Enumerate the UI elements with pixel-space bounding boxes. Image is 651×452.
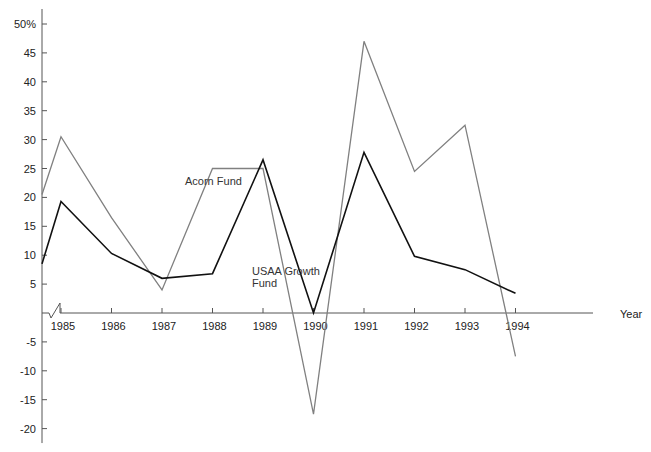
x-tick-label: 1991 [354,320,378,332]
y-tick-label: 35 [24,105,36,117]
y-tick-label: 50% [14,18,36,30]
y-tick-label: -20 [20,423,36,435]
x-tick-label: 1985 [51,320,75,332]
y-tick-label: 25 [24,163,36,175]
x-axis-line-with-break [42,303,593,318]
acorn-fund-label: Acorn Fund [185,175,242,187]
y-tick-label: -10 [20,365,36,377]
x-axis-title: Year [620,308,643,320]
x-tick-label: 1989 [253,320,277,332]
x-tick-label: 1987 [152,320,176,332]
y-tick-label: 15 [24,220,36,232]
y-tick-label: 20 [24,191,36,203]
series-lines [42,41,516,414]
y-tick-label: 45 [24,47,36,59]
y-tick-label: -15 [20,394,36,406]
usaa-growth-fund-label-line1: USAA Growth [252,265,320,277]
line-chart: 50%45403530252015105-5-10-15-20 19851986… [0,0,651,452]
x-tick-label: 1992 [404,320,428,332]
usaa-growth-fund-line [42,152,516,313]
usaa-growth-fund-label-line2: Fund [252,277,277,289]
x-tick-label: 1986 [101,320,125,332]
y-tick-label: 30 [24,134,36,146]
x-tick-label: 1993 [455,320,479,332]
y-tick-label: 10 [24,249,36,261]
acorn-fund-line [42,41,516,414]
y-tick-label: 5 [30,278,36,290]
y-tick-label: -5 [26,336,36,348]
x-axis: 1985198619871988198919901991199219931994 [42,303,593,332]
y-tick-label: 40 [24,76,36,88]
x-tick-label: 1988 [202,320,226,332]
y-axis: 50%45403530252015105-5-10-15-20 [14,9,47,443]
x-tick-label: 1990 [303,320,327,332]
